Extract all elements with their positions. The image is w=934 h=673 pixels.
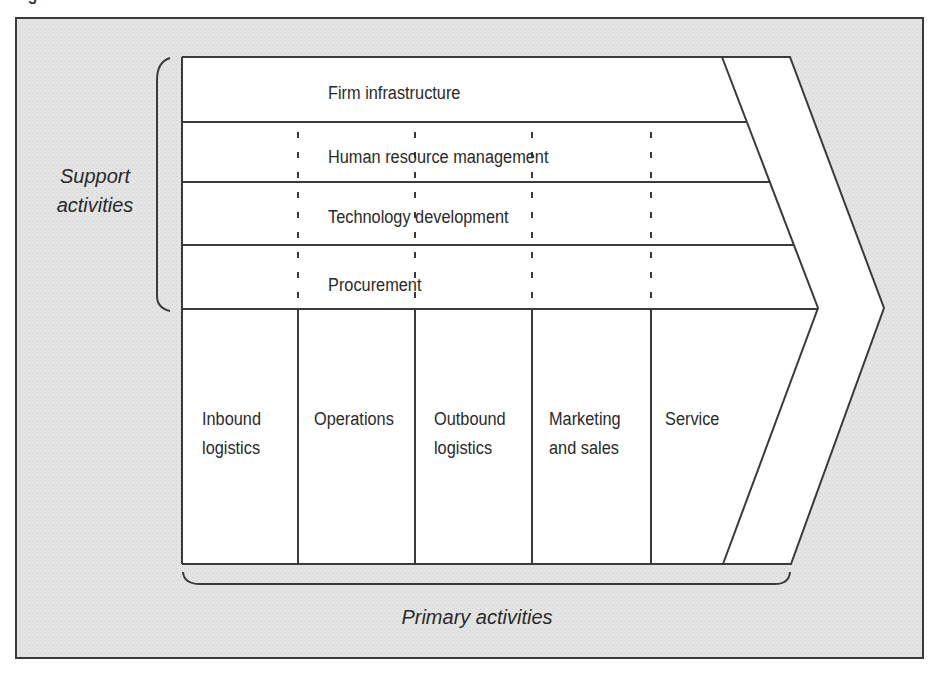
support-activities-label-line1: Support — [60, 165, 131, 187]
support-activities-label-line2: activities — [57, 194, 134, 216]
support-row-human-resource-management: Human resource management — [328, 146, 549, 167]
margin-label-lower: Margin — [0, 0, 50, 4]
primary-col-inbound-line2: logistics — [202, 437, 260, 458]
primary-col-outbound-line2: logistics — [434, 437, 492, 458]
primary-col-marketing-line1: Marketing — [549, 408, 621, 429]
primary-col-operations-line1: Operations — [314, 408, 394, 429]
support-row-procurement: Procurement — [328, 274, 422, 295]
support-row-technology-development: Technology development — [328, 206, 509, 227]
support-row-firm-infrastructure: Firm infrastructure — [328, 82, 461, 103]
primary-col-marketing-line2: and sales — [549, 437, 619, 458]
value-chain-diagram: Firm infrastructure Human resource manag… — [0, 0, 934, 673]
primary-col-inbound-line1: Inbound — [202, 408, 261, 429]
primary-col-outbound-line1: Outbound — [434, 408, 506, 429]
primary-col-service-line1: Service — [665, 408, 720, 429]
primary-activities-label: Primary activities — [401, 606, 552, 628]
